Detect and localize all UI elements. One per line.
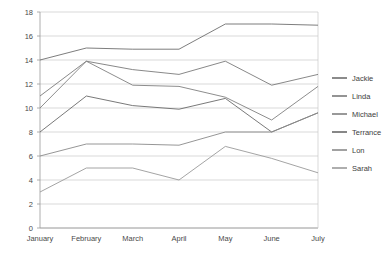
- x-axis-tick-label: June: [264, 234, 280, 243]
- x-axis-tick-label: February: [71, 234, 101, 243]
- series-line-jackie: [40, 24, 318, 60]
- y-axis-tick-label: 4: [29, 176, 33, 185]
- gridlines: [40, 12, 318, 228]
- y-axis-tick-label: 8: [29, 128, 33, 137]
- y-axis-tick-label: 14: [25, 56, 33, 65]
- y-axis-tick-label: 16: [25, 32, 33, 41]
- x-axis-tick-label: April: [171, 234, 186, 243]
- series-line-terrance: [40, 96, 318, 132]
- x-axis-tick-label: March: [122, 234, 143, 243]
- series-line-lon: [40, 113, 318, 156]
- axis-lines: [40, 12, 318, 228]
- legend-label-terrance: Terrance: [352, 128, 381, 137]
- legend-label-lon: Lon: [352, 146, 365, 155]
- legend-label-sarah: Sarah: [352, 164, 372, 173]
- y-axis-tick-label: 18: [25, 8, 33, 17]
- chart-canvas: 024681012141618 JanuaryFebruaryMarchApri…: [0, 0, 390, 268]
- y-axis-tick-label: 6: [29, 152, 33, 161]
- y-axis-tick-label: 12: [25, 80, 33, 89]
- x-axis-tick-labels: JanuaryFebruaryMarchAprilMayJuneJuly: [27, 234, 325, 243]
- x-axis-tick-label: May: [218, 234, 232, 243]
- legend-label-linda: Linda: [352, 92, 371, 101]
- legend-label-jackie: Jackie: [352, 74, 373, 83]
- series-line-michael: [40, 61, 318, 120]
- y-tick-marks: [37, 12, 40, 228]
- line-chart: 024681012141618 JanuaryFebruaryMarchApri…: [0, 0, 390, 268]
- x-axis-tick-label: July: [311, 234, 325, 243]
- legend: JackieLindaMichaelTerranceLonSarah: [332, 74, 381, 173]
- x-axis-tick-label: January: [27, 234, 54, 243]
- y-axis-tick-label: 2: [29, 200, 33, 209]
- y-axis-tick-label: 0: [29, 224, 33, 233]
- series-line-sarah: [40, 146, 318, 192]
- y-axis-tick-labels: 024681012141618: [25, 8, 33, 233]
- legend-label-michael: Michael: [352, 110, 378, 119]
- y-axis-tick-label: 10: [25, 104, 33, 113]
